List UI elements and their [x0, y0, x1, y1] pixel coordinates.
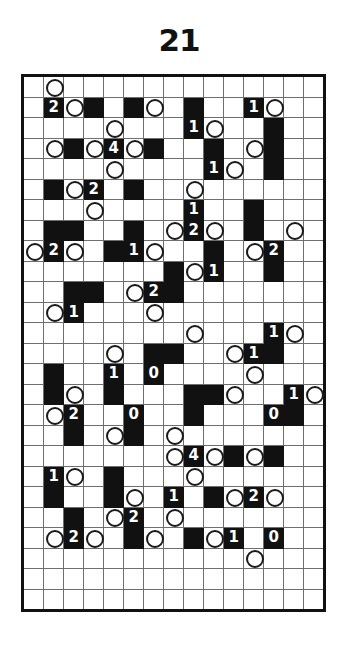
grid-cell[interactable]: [84, 118, 104, 139]
grid-cell[interactable]: [104, 528, 124, 549]
grid-cell[interactable]: [304, 220, 325, 241]
circle-marker-icon[interactable]: [286, 222, 304, 240]
grid-cell-block[interactable]: 4: [184, 446, 204, 467]
grid-cell[interactable]: [244, 179, 264, 200]
grid-cell[interactable]: [224, 589, 244, 611]
grid-cell[interactable]: [304, 384, 325, 405]
grid-cell[interactable]: [124, 343, 144, 364]
grid-cell[interactable]: [84, 220, 104, 241]
grid-cell[interactable]: [84, 507, 104, 528]
grid-cell[interactable]: [164, 118, 184, 139]
grid-cell[interactable]: [184, 76, 204, 98]
grid-cell[interactable]: [64, 241, 84, 262]
grid-cell-block[interactable]: [164, 261, 184, 282]
grid-cell-block[interactable]: 1: [204, 261, 224, 282]
grid-cell[interactable]: [284, 179, 304, 200]
grid-cell-block[interactable]: [104, 466, 124, 487]
circle-marker-icon[interactable]: [126, 284, 144, 302]
grid-cell[interactable]: [144, 384, 164, 405]
grid-cell-block[interactable]: 1: [64, 302, 84, 323]
grid-cell-block[interactable]: [44, 487, 64, 508]
grid-cell[interactable]: [304, 466, 325, 487]
grid-cell[interactable]: [64, 589, 84, 611]
circle-marker-icon[interactable]: [206, 448, 224, 466]
circle-marker-icon[interactable]: [106, 120, 124, 138]
circle-marker-icon[interactable]: [186, 325, 204, 343]
grid-cell[interactable]: [44, 343, 64, 364]
grid-cell-block[interactable]: 1: [44, 466, 64, 487]
grid-cell[interactable]: [64, 569, 84, 590]
grid-cell[interactable]: [44, 159, 64, 180]
grid-cell[interactable]: [244, 241, 264, 262]
circle-marker-icon[interactable]: [166, 448, 184, 466]
grid-cell[interactable]: [184, 569, 204, 590]
grid-cell[interactable]: [124, 118, 144, 139]
grid-cell[interactable]: [144, 302, 164, 323]
grid-cell[interactable]: [84, 261, 104, 282]
grid-cell[interactable]: [164, 364, 184, 385]
grid-cell-block[interactable]: [184, 405, 204, 426]
grid-cell[interactable]: [264, 384, 284, 405]
grid-cell[interactable]: [244, 159, 264, 180]
grid-cell[interactable]: [84, 446, 104, 467]
grid-cell[interactable]: [204, 364, 224, 385]
grid-cell-block[interactable]: [44, 384, 64, 405]
grid-cell[interactable]: [44, 118, 64, 139]
grid-cell[interactable]: [164, 446, 184, 467]
grid-cell[interactable]: [204, 323, 224, 344]
grid-cell-block[interactable]: 2: [64, 405, 84, 426]
grid-cell[interactable]: [23, 487, 44, 508]
grid-cell[interactable]: [23, 446, 44, 467]
grid-cell[interactable]: [264, 487, 284, 508]
grid-cell[interactable]: [64, 159, 84, 180]
grid-cell[interactable]: [23, 282, 44, 303]
grid-cell[interactable]: [23, 405, 44, 426]
grid-cell[interactable]: [144, 323, 164, 344]
circle-marker-icon[interactable]: [166, 509, 184, 527]
grid-cell-block[interactable]: [124, 179, 144, 200]
circle-marker-icon[interactable]: [106, 161, 124, 179]
grid-cell[interactable]: [304, 200, 325, 221]
circle-marker-icon[interactable]: [146, 530, 164, 548]
grid-cell-block[interactable]: 2: [264, 241, 284, 262]
grid-cell[interactable]: [304, 364, 325, 385]
grid-cell-block[interactable]: [164, 343, 184, 364]
grid-cell[interactable]: [23, 507, 44, 528]
grid-cell[interactable]: [224, 138, 244, 159]
grid-cell[interactable]: [164, 405, 184, 426]
grid-cell[interactable]: [204, 548, 224, 569]
grid-cell[interactable]: [284, 589, 304, 611]
grid-cell[interactable]: [284, 507, 304, 528]
grid-cell[interactable]: [164, 179, 184, 200]
grid-cell[interactable]: [264, 466, 284, 487]
grid-cell[interactable]: [144, 220, 164, 241]
grid-cell[interactable]: [84, 76, 104, 98]
grid-cell[interactable]: [124, 466, 144, 487]
grid-cell[interactable]: [124, 138, 144, 159]
grid-cell[interactable]: [164, 548, 184, 569]
grid-cell[interactable]: [284, 548, 304, 569]
circle-marker-icon[interactable]: [146, 99, 164, 117]
grid-cell[interactable]: [304, 507, 325, 528]
grid-cell[interactable]: [84, 323, 104, 344]
grid-cell[interactable]: [124, 159, 144, 180]
grid-cell[interactable]: [224, 118, 244, 139]
grid-cell[interactable]: [84, 569, 104, 590]
grid-cell[interactable]: [204, 302, 224, 323]
grid-cell[interactable]: [124, 384, 144, 405]
grid-cell[interactable]: [64, 118, 84, 139]
grid-cell[interactable]: [84, 589, 104, 611]
grid-cell-block[interactable]: 0: [124, 405, 144, 426]
grid-cell[interactable]: [164, 528, 184, 549]
grid-cell[interactable]: [304, 261, 325, 282]
grid-cell[interactable]: [284, 446, 304, 467]
grid-cell[interactable]: [124, 548, 144, 569]
grid-cell[interactable]: [244, 118, 264, 139]
grid-cell[interactable]: [44, 282, 64, 303]
grid-cell[interactable]: [23, 589, 44, 611]
grid-cell[interactable]: [184, 548, 204, 569]
grid-cell[interactable]: [164, 138, 184, 159]
grid-cell[interactable]: [244, 569, 264, 590]
circle-marker-icon[interactable]: [206, 120, 224, 138]
grid-cell[interactable]: [144, 446, 164, 467]
